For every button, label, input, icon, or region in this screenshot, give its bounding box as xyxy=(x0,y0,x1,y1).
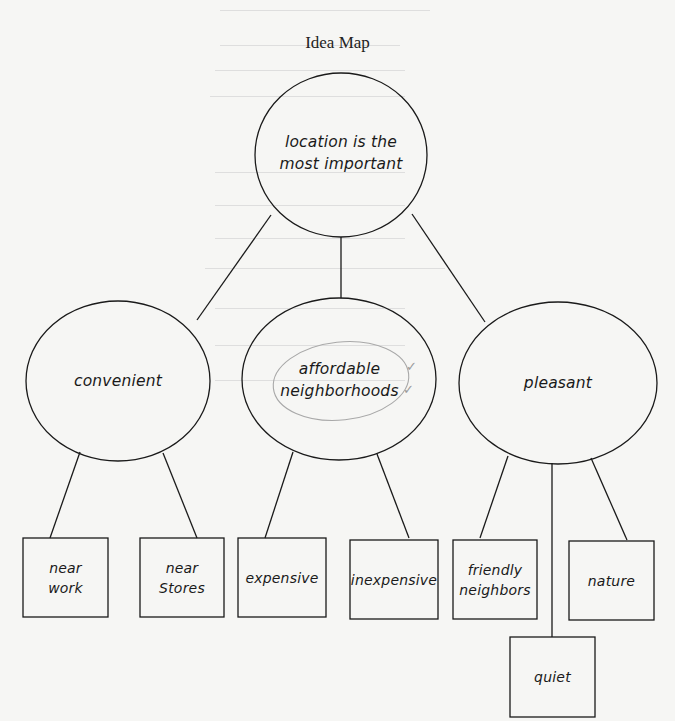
leaf-label-quiet: quiet xyxy=(510,637,595,717)
leaf-line: friendly xyxy=(459,560,530,580)
root-line-2: most important xyxy=(279,153,402,175)
pleasant-node-label: pleasant xyxy=(459,372,657,394)
leaf-label-inexpensive: inexpensive xyxy=(350,540,438,619)
root-node-label: location is the most important xyxy=(255,128,427,178)
affordable-line-1: affordable xyxy=(280,358,398,380)
leaf-label-expensive: expensive xyxy=(238,538,326,617)
idea-map-page: Idea Map xyxy=(0,0,675,721)
leaf-label-friendly-neighbors: friendly neighbors xyxy=(453,540,537,619)
leaf-line: near xyxy=(159,558,205,578)
connector-root-convenient xyxy=(197,215,271,320)
connector-convenient-stores xyxy=(163,453,197,538)
connector-pleasant-nature xyxy=(591,458,627,540)
connector-convenient-work xyxy=(50,452,80,538)
connector-affordable-expensive xyxy=(265,452,293,538)
connector-root-pleasant xyxy=(412,214,485,322)
leaf-label-nature: nature xyxy=(569,541,654,620)
leaf-line: work xyxy=(48,578,83,598)
convenient-node-label: convenient xyxy=(26,370,210,392)
leaf-label-near-stores: near Stores xyxy=(140,538,224,617)
leaf-label-near-work: near work xyxy=(23,538,108,617)
leaf-line: near xyxy=(48,558,83,578)
affordable-node-label: affordable neighborhoods xyxy=(262,358,417,402)
checkmark-icon: ✓ xyxy=(406,359,417,374)
leaf-line: neighbors xyxy=(459,580,530,600)
root-line-1: location is the xyxy=(279,131,402,153)
connector-affordable-inexpensive xyxy=(377,454,409,538)
leaf-line: Stores xyxy=(159,578,205,598)
checkmark-icon: ✓ xyxy=(403,382,414,397)
affordable-line-2: neighborhoods xyxy=(280,380,398,402)
connector-pleasant-friendly xyxy=(480,456,508,538)
